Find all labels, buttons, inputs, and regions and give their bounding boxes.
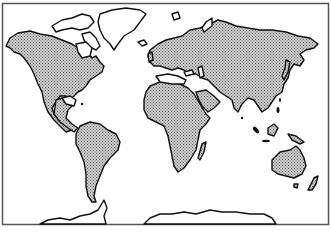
island-sri-lanka	[241, 117, 243, 119]
region-british-isles	[148, 52, 153, 62]
island-taiwan	[279, 98, 281, 102]
island-philippines	[277, 107, 280, 113]
region-svalbard	[172, 12, 180, 20]
island-java	[262, 140, 270, 142]
island-cuba	[81, 103, 83, 105]
world-map	[0, 0, 331, 232]
region-tasmania	[294, 184, 298, 188]
